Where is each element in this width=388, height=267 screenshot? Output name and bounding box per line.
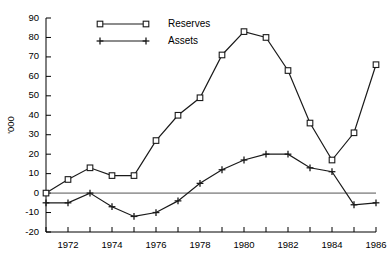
line-chart: 9080706050403020100-10-20197219741976197… (0, 0, 388, 267)
data-point-marker (285, 68, 291, 74)
x-tick-label: 1984 (321, 239, 342, 250)
data-point-marker (65, 177, 71, 183)
y-tick-label: 80 (28, 31, 39, 42)
data-point-marker (97, 21, 103, 27)
data-point-marker (373, 62, 379, 68)
y-tick-label: 10 (28, 167, 39, 178)
y-tick-label: 30 (28, 128, 39, 139)
series-line (46, 154, 376, 216)
data-point-marker (241, 29, 247, 35)
x-tick-label: 1986 (365, 239, 386, 250)
y-tick-label: -20 (25, 226, 39, 237)
data-point-marker (219, 52, 225, 58)
data-point-marker (175, 112, 181, 118)
chart-legend: ReservesAssets (97, 18, 211, 46)
series-line (46, 32, 376, 193)
y-tick-label: 60 (28, 70, 39, 81)
data-point-marker (131, 173, 137, 179)
data-point-marker (87, 165, 93, 171)
y-tick-label: 50 (28, 89, 39, 100)
x-tick-label: 1982 (277, 239, 298, 250)
x-tick-label: 1980 (233, 239, 254, 250)
data-point-marker (263, 35, 269, 41)
y-tick-label: 20 (28, 148, 39, 159)
data-point-marker (351, 130, 357, 136)
data-point-marker (153, 138, 159, 144)
y-axis-title: '000 (5, 116, 16, 134)
data-point-marker (109, 173, 115, 179)
data-point-marker (329, 157, 335, 163)
data-point-marker (43, 190, 49, 196)
y-tick-label: 40 (28, 109, 39, 120)
legend-label-assets: Assets (168, 35, 198, 46)
legend-label-reserves: Reserves (168, 18, 210, 29)
y-tick-label: 0 (34, 187, 39, 198)
y-tick-label: 70 (28, 50, 39, 61)
chart-container: 9080706050403020100-10-20197219741976197… (0, 0, 388, 267)
x-tick-label: 1978 (189, 239, 210, 250)
data-point-marker (143, 21, 149, 27)
data-point-marker (307, 120, 313, 126)
data-point-marker (197, 95, 203, 101)
x-tick-label: 1976 (145, 239, 166, 250)
x-tick-label: 1972 (57, 239, 78, 250)
x-tick-label: 1974 (101, 239, 122, 250)
y-tick-label: -10 (25, 206, 39, 217)
y-tick-label: 90 (28, 12, 39, 23)
